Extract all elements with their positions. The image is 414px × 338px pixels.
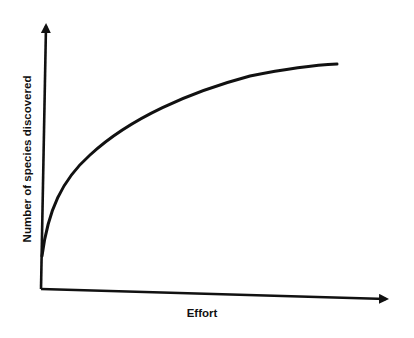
accumulation-curve: [42, 64, 337, 256]
x-axis: [41, 289, 386, 299]
x-axis-label: Effort: [187, 307, 218, 319]
chart: Effort Number of species discovered: [0, 0, 414, 338]
y-axis-label: Number of species discovered: [21, 76, 33, 243]
